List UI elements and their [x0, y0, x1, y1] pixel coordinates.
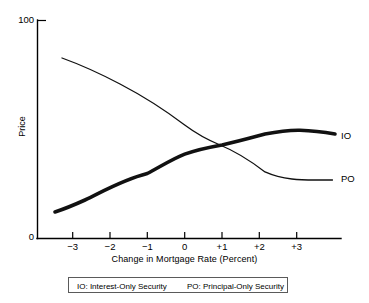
x-axis-tick-label-plus1: +1: [207, 242, 237, 252]
series-end-label-po: PO: [341, 174, 355, 184]
y-axis-tick-label-0: 0: [14, 232, 34, 242]
x-axis-tick-label--2: −2: [95, 242, 125, 252]
series-line-io: [55, 130, 335, 212]
chart-figure: 100 0 Price −3 −2 −1 0 +1 +2 +3 Change i…: [0, 0, 369, 303]
x-axis-tick-label--1: −1: [132, 242, 162, 252]
y-axis-title: Price: [18, 110, 27, 144]
x-axis-tick-label-plus3: +3: [282, 242, 312, 252]
x-axis-tick-label-plus2: +2: [244, 242, 274, 252]
legend-entry-po: PO: Principal-Only Security: [187, 282, 284, 291]
series-line-po: [62, 58, 333, 180]
chart-legend: IO: Interest-Only Security PO: Principal…: [68, 277, 288, 293]
x-axis-title: Change in Mortgage Rate (Percent): [0, 255, 369, 264]
legend-entry-io: IO: Interest-Only Security: [77, 282, 167, 291]
x-axis-tick-label-0: 0: [170, 242, 200, 252]
y-axis-tick-label-100: 100: [8, 15, 34, 25]
series-end-label-io: IO: [341, 131, 351, 141]
x-axis-ticks: [73, 232, 297, 239]
x-axis-tick-label--3: −3: [58, 242, 88, 252]
